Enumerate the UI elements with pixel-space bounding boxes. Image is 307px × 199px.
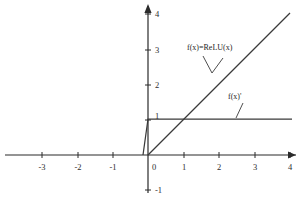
relu-plot-figure: -3 -2 -1 0 1 2 3 4 4 3 2 1 -1 — [0, 0, 307, 199]
y-tick-label: 2 — [155, 80, 159, 90]
x-tick-label: 4 — [288, 162, 293, 172]
series-relu — [148, 13, 290, 155]
relu-positive-segment — [148, 13, 290, 155]
relu-annotation-label: f(x)=ReLU(x) — [187, 43, 233, 52]
derivative-annotation-label: f(x)' — [228, 92, 242, 101]
x-tick-labels: -3 -2 -1 0 1 2 3 4 — [38, 162, 292, 172]
y-axis-arrow-icon — [144, 4, 151, 13]
x-axis-arrow-icon — [288, 152, 296, 159]
x-tick-label: 1 — [182, 162, 186, 172]
y-tick-label: 3 — [155, 45, 159, 55]
x-tick-label-origin: 0 — [152, 162, 156, 172]
relu-chart-svg: -3 -2 -1 0 1 2 3 4 4 3 2 1 -1 — [0, 0, 307, 199]
relu-annotation-leader-line — [203, 56, 223, 73]
x-tick-label: -2 — [74, 162, 81, 172]
y-tick-label: -1 — [155, 185, 162, 195]
x-tick-label: 3 — [253, 162, 257, 172]
annotation-derivative: f(x)' — [228, 92, 243, 118]
x-tick-label: -3 — [38, 162, 45, 172]
annotation-relu: f(x)=ReLU(x) — [187, 43, 233, 73]
x-tick-label: 2 — [217, 162, 221, 172]
derivative-annotation-leader-line — [236, 103, 243, 118]
x-tick-label: -1 — [109, 162, 116, 172]
y-tick-label: 4 — [155, 9, 160, 19]
